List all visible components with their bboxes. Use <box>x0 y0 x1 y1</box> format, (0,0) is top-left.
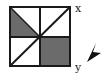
shaded-square-bottom-right <box>40 37 70 66</box>
arrow-icon <box>87 43 101 62</box>
folding-diagram <box>0 0 107 79</box>
label-y: y <box>75 62 81 73</box>
label-x: x <box>75 3 81 14</box>
